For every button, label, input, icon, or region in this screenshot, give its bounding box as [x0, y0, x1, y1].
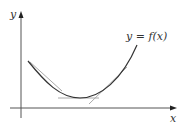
- tangent-left: [30, 62, 62, 91]
- y-axis-arrow-icon: [19, 11, 24, 18]
- x-axis: [10, 106, 177, 111]
- x-axis-label: x: [170, 112, 177, 125]
- function-diagram: y x y = f(x): [0, 0, 187, 128]
- curve-f-of-x: [28, 45, 137, 98]
- y-axis-label: y: [9, 8, 17, 21]
- curve-label: y = f(x): [125, 30, 167, 43]
- y-axis: [19, 11, 24, 118]
- x-axis-arrow-icon: [170, 106, 177, 111]
